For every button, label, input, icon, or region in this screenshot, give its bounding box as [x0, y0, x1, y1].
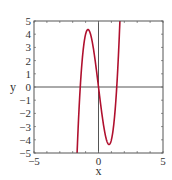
- y-tick-label: 3: [26, 41, 32, 53]
- y-tick-label: −2: [19, 107, 31, 119]
- y-tick-label: 5: [26, 15, 32, 27]
- function-plot: −5−4−3−2−1012345−505 x y: [0, 0, 172, 180]
- y-tick-label: 2: [26, 55, 32, 67]
- y-tick-label: 1: [26, 68, 32, 80]
- y-tick-label: 4: [26, 28, 32, 40]
- y-tick-label: −4: [19, 134, 31, 146]
- y-tick-label: −3: [19, 121, 31, 133]
- x-axis-label: x: [96, 164, 102, 178]
- y-tick-label: 0: [26, 81, 32, 93]
- labels-layer: −5−4−3−2−1012345−505: [19, 15, 166, 167]
- x-tick-label: 5: [160, 155, 166, 167]
- y-tick-label: −1: [19, 94, 31, 106]
- y-axis-label: y: [10, 80, 16, 94]
- x-tick-label: −5: [28, 155, 40, 167]
